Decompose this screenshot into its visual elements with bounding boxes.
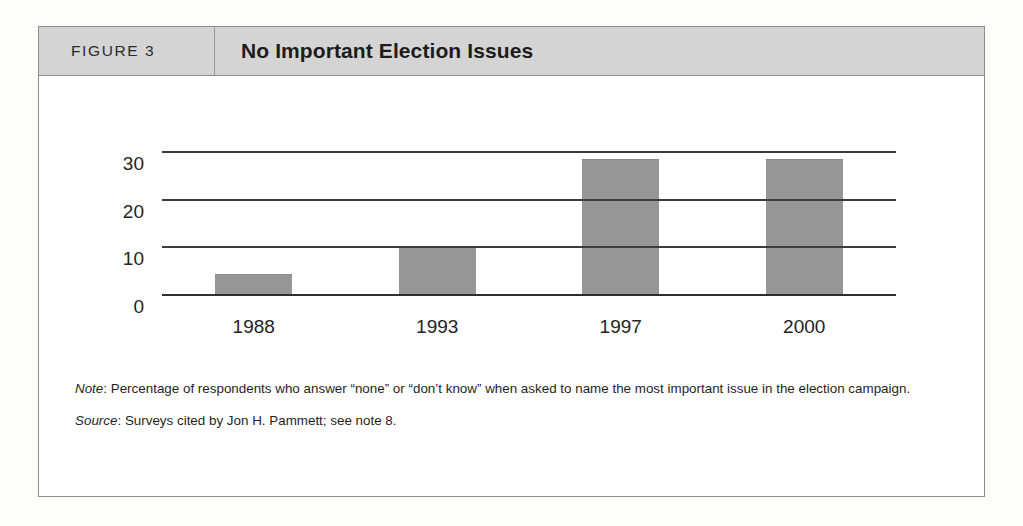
bar-group: 1988: [162, 153, 346, 296]
x-axis-tick-label: 1988: [233, 316, 275, 338]
x-axis-tick-label: 1993: [416, 316, 458, 338]
bar: [582, 159, 659, 296]
bar-group: 1993: [346, 153, 530, 296]
chart-area: 1988199319972000 0102030: [39, 76, 984, 496]
note-label: Note: [75, 381, 103, 396]
gridline: 30: [162, 151, 896, 153]
bar-wrapper: [215, 153, 292, 296]
bar: [399, 247, 476, 296]
figure-title: No Important Election Issues: [215, 27, 984, 75]
bar-wrapper: [582, 153, 659, 296]
source-line: Source: Surveys cited by Jon H. Pammett;…: [75, 411, 950, 430]
bar-series: 1988199319972000: [162, 153, 896, 296]
note-text: : Percentage of respondents who answer “…: [103, 381, 910, 396]
figure-number-label: FIGURE 3: [39, 27, 215, 75]
figure-page: FIGURE 3 No Important Election Issues 19…: [0, 0, 1023, 526]
gridline: 20: [162, 199, 896, 201]
figure-header: FIGURE 3 No Important Election Issues: [39, 27, 984, 76]
bar-group: 2000: [713, 153, 897, 296]
bar-wrapper: [766, 153, 843, 296]
source-label: Source: [75, 413, 117, 428]
bar: [766, 159, 843, 296]
note-line: Note: Percentage of respondents who answ…: [75, 379, 950, 398]
source-text: : Surveys cited by Jon H. Pammett; see n…: [117, 413, 396, 428]
x-axis-tick-label: 1997: [600, 316, 642, 338]
figure-container: FIGURE 3 No Important Election Issues 19…: [38, 26, 985, 497]
bar: [215, 274, 292, 296]
x-axis-tick-label: 2000: [783, 316, 825, 338]
bar-chart-plot: 1988199319972000 0102030: [162, 153, 896, 296]
axis-baseline: 0: [162, 294, 896, 296]
gridline: 10: [162, 246, 896, 248]
bar-wrapper: [399, 153, 476, 296]
bar-group: 1997: [529, 153, 713, 296]
figure-notes: Note: Percentage of respondents who answ…: [75, 379, 950, 431]
